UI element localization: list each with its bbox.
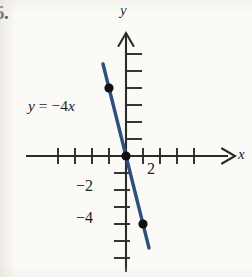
y-axis-tick-label-negative-2: −2	[76, 177, 93, 195]
equation-coefficient: −4	[51, 97, 68, 114]
x-axis-label: x	[238, 146, 245, 163]
figure-page: 5.	[0, 0, 252, 277]
equation-variable: x	[68, 97, 75, 114]
equation-equals-glyph: =	[39, 97, 48, 114]
data-point-1-neg4	[138, 219, 147, 228]
equation-lhs: y	[28, 97, 35, 114]
coordinate-plane-graph	[0, 0, 252, 277]
data-point-origin	[121, 151, 130, 160]
problem-number: 5.	[0, 2, 8, 24]
y-axis-label: y	[120, 2, 127, 19]
data-point-neg1-4	[104, 83, 113, 92]
y-axis-tick-label-negative-4: −4	[76, 209, 93, 227]
equation-annotation: y = −4x	[28, 97, 75, 115]
x-axis-tick-label-2: 2	[147, 160, 155, 178]
